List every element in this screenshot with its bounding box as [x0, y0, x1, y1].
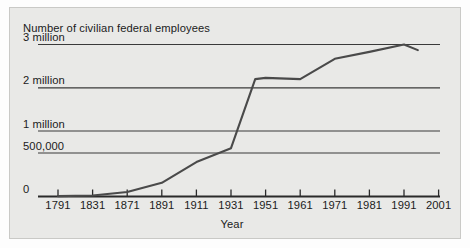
y-axis-tick-label: 500,000	[23, 140, 64, 152]
x-axis-tick-label: 2001	[426, 199, 451, 211]
x-axis-tick-label: 1971	[322, 199, 347, 211]
x-axis-tick-label: 1891	[149, 199, 174, 211]
x-axis-tick-label: 1791	[45, 199, 70, 211]
x-axis-title: Year	[220, 218, 243, 230]
x-axis-tick-label: 1931	[218, 199, 243, 211]
data-series-line	[58, 45, 418, 197]
x-axis-tick-label: 1871	[115, 199, 140, 211]
gridline-group	[38, 45, 440, 154]
x-axis-tick-label: 1911	[184, 199, 208, 211]
x-axis-tick-label: 1831	[80, 199, 105, 211]
x-axis-tick-label: 1981	[357, 199, 382, 211]
chart-figure: Number of civilian federal employees 050…	[0, 0, 470, 248]
y-axis-tick-label: 0	[23, 183, 29, 195]
y-axis-tick-label: 1 million	[23, 118, 65, 130]
x-axis-tick-label: 1961	[288, 199, 313, 211]
y-axis-tick-label: 3 million	[23, 31, 65, 43]
y-axis-tick-label: 2 million	[23, 74, 65, 86]
x-axis-tick-label: 1991	[391, 199, 416, 211]
x-axis-tick-label: 1951	[253, 199, 278, 211]
